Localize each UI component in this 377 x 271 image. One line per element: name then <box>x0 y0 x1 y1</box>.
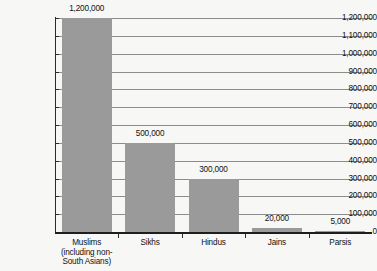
y-axis-tick-mark <box>55 196 59 197</box>
bar <box>62 18 112 232</box>
y-axis-tick-mark <box>55 89 59 90</box>
y-axis-tick-mark <box>55 72 59 73</box>
bar-value-label: 20,000 <box>245 215 308 223</box>
bar <box>189 179 239 233</box>
y-axis-tick-mark <box>55 179 59 180</box>
y-axis-tick-label: 200,000 <box>325 192 377 200</box>
y-axis-tick-label: 600,000 <box>325 121 377 129</box>
bar-value-label: 300,000 <box>182 166 245 174</box>
bar <box>125 143 175 232</box>
bar-value-label: 5,000 <box>309 218 372 226</box>
y-axis-tick-mark <box>55 18 59 19</box>
y-axis-tick-label: 1,000,000 <box>325 50 377 58</box>
category-label-line: Parsis <box>303 238 377 248</box>
y-axis-tick-mark <box>55 54 59 55</box>
y-axis-tick-label: 400,000 <box>325 157 377 165</box>
category-label-line: (including non- <box>49 248 124 258</box>
bar-value-label: 1,200,000 <box>55 5 118 13</box>
y-axis-tick-mark <box>55 143 59 144</box>
bar-chart: 1,200,0001,100,0001,000,000900,000800,00… <box>0 0 377 271</box>
y-axis-tick-label: 800,000 <box>325 85 377 93</box>
y-axis-tick-label: 1,200,000 <box>325 14 377 22</box>
y-axis-tick-label: 0 <box>325 228 377 236</box>
y-axis-tick-label: 1,100,000 <box>325 32 377 40</box>
y-axis-tick-mark <box>55 214 59 215</box>
category-label-line: South Asians) <box>49 257 124 267</box>
y-axis-tick-label: 900,000 <box>325 68 377 76</box>
bar-value-label: 500,000 <box>118 130 181 138</box>
y-axis-tick-mark <box>55 161 59 162</box>
x-axis-category-label: Parsis <box>303 238 377 248</box>
y-axis-tick-label: 300,000 <box>325 175 377 183</box>
y-axis-tick-mark <box>55 107 59 108</box>
y-axis-tick-mark <box>55 36 59 37</box>
y-axis-tick-mark <box>55 125 59 126</box>
y-axis-tick-label: 500,000 <box>325 139 377 147</box>
y-axis-tick-label: 700,000 <box>325 103 377 111</box>
